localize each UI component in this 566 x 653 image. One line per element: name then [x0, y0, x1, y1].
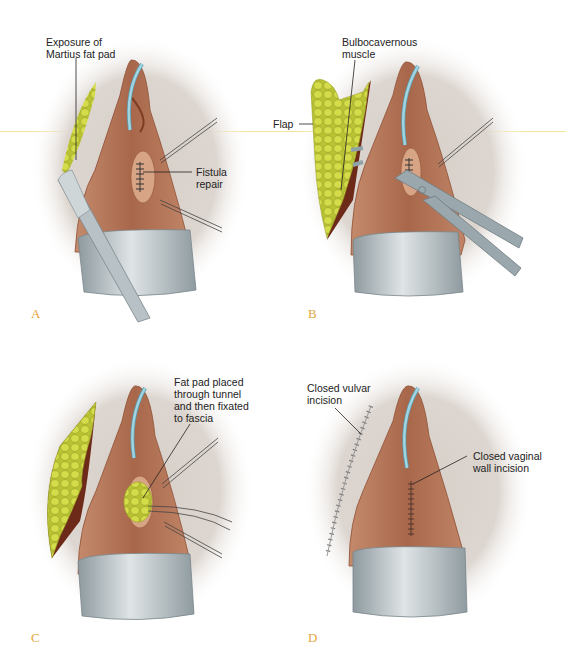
panel-b-illustration	[283, 0, 566, 326]
panel-d: Closed vulvar incision Closed vaginal wa…	[283, 326, 566, 652]
label-closed-vulvar-incision: Closed vulvar incision	[307, 382, 371, 406]
panel-a-illustration	[0, 0, 283, 326]
panel-letter-b: B	[308, 306, 317, 322]
panel-letter-c: C	[31, 630, 40, 646]
panel-d-illustration	[283, 326, 566, 653]
panel-a: Exposure of Martius fat pad Fistula repa…	[0, 0, 283, 326]
label-fat-pad-placed: Fat pad placed through tunnel and then f…	[174, 376, 249, 424]
label-closed-vaginal-wall-incision: Closed vaginal wall incision	[473, 450, 542, 474]
label-bulbocavernous-muscle: Bulbocavernous muscle	[342, 36, 417, 60]
retractor-icon	[78, 553, 194, 619]
panel-b: Bulbocavernous muscle Flap B	[283, 0, 566, 326]
retractor-icon	[353, 547, 467, 617]
panel-c: Fat pad placed through tunnel and then f…	[0, 326, 283, 652]
retractor-icon	[353, 232, 463, 296]
panel-letter-d: D	[308, 630, 317, 646]
panel-letter-a: A	[31, 306, 40, 322]
label-exposure-martius: Exposure of Martius fat pad	[46, 36, 115, 60]
label-fistula-repair: Fistula repair	[196, 166, 227, 190]
label-flap: Flap	[273, 118, 293, 130]
